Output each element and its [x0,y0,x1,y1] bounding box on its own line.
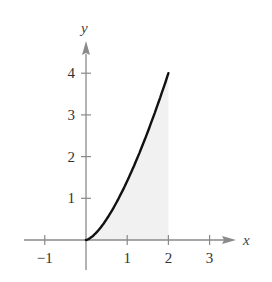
x-axis-arrow-icon [222,236,236,244]
y-axis-label: y [79,20,88,36]
x-tick-label: 2 [165,250,173,266]
y-ticks: 1234 [68,65,92,206]
x-tick-label: −1 [37,250,53,266]
y-tick-label: 3 [68,107,76,123]
y-tick-label: 1 [68,190,76,206]
y-tick-label: 2 [68,149,76,165]
y-tick-label: 4 [68,65,76,81]
x-axis-label: x [242,232,250,248]
chart: −1123 1234 x y [0,0,272,282]
x-tick-label: 3 [206,250,214,266]
y-axis-arrow-icon [82,41,90,55]
x-tick-label: 1 [123,250,131,266]
shaded-region [86,73,168,240]
